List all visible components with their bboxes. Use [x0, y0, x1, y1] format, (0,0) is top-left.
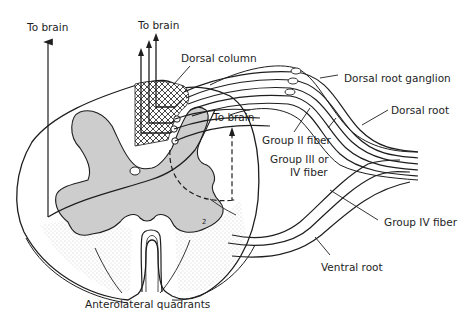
- central-canal: [130, 167, 140, 175]
- label-group-iii-iv-line2: IV fiber: [290, 166, 328, 178]
- label-marker-2: 2: [202, 218, 206, 226]
- label-dorsal-root: Dorsal root: [391, 104, 449, 116]
- label-dorsal-column: Dorsal column: [181, 52, 257, 64]
- spinal-cord-diagram: To brain To brain Dorsal column To brain…: [0, 0, 465, 323]
- label-group-ii-fiber: Group II fiber: [262, 134, 332, 146]
- label-to-brain-right: To brain: [212, 111, 254, 123]
- label-group-iv-fiber: Group IV fiber: [384, 216, 458, 228]
- label-ventral-root: Ventral root: [321, 261, 383, 273]
- label-anterolateral-quadrants: Anterolateral quadrants: [85, 298, 210, 310]
- label-dorsal-root-ganglion: Dorsal root ganglion: [344, 72, 451, 84]
- label-group-iii-iv-line1: Group III or: [270, 153, 329, 165]
- label-to-brain-top: To brain: [137, 19, 179, 31]
- label-to-brain-left: To brain: [26, 21, 68, 33]
